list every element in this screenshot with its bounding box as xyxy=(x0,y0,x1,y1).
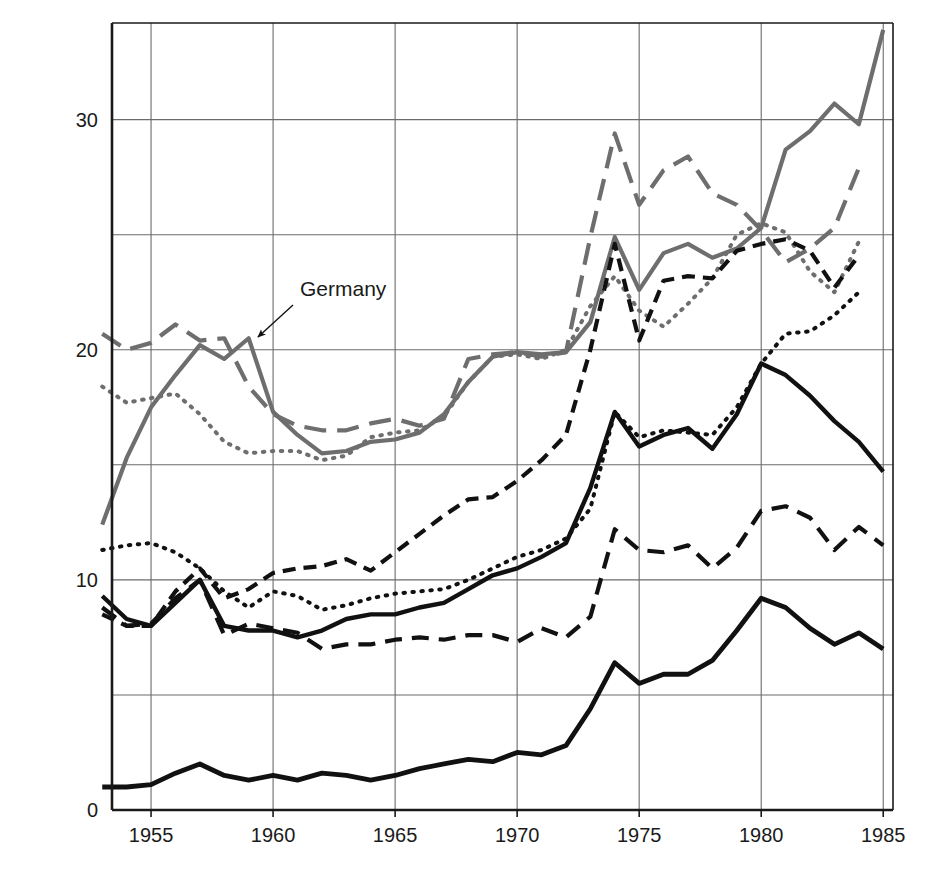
x-tick-label: 1985 xyxy=(861,824,906,846)
chart-page: 01020301955196019651970197519801985 Germ… xyxy=(0,0,931,870)
x-tick-label: 1980 xyxy=(739,824,784,846)
y-tick-label: 10 xyxy=(76,569,98,591)
gridlines-group xyxy=(112,23,893,810)
axis-frame xyxy=(112,23,893,810)
gnp-line-chart: 01020301955196019651970197519801985 Germ… xyxy=(0,0,931,870)
series-line-united-kingdom xyxy=(102,133,859,430)
tick-labels-group: 01020301955196019651970197519801985 xyxy=(76,109,906,846)
x-tick-label: 1960 xyxy=(251,824,296,846)
series-line-world xyxy=(102,364,883,638)
y-tick-label: 30 xyxy=(76,109,98,131)
series-group xyxy=(102,30,883,787)
x-tick-label: 1975 xyxy=(617,824,662,846)
x-tick-label: 1970 xyxy=(495,824,540,846)
x-tick-label: 1955 xyxy=(129,824,174,846)
series-line-france xyxy=(102,292,859,610)
y-tick-label: 0 xyxy=(87,799,98,821)
x-tick-label: 1965 xyxy=(373,824,418,846)
series-label-germany: Germany xyxy=(300,277,387,300)
series-line-canada xyxy=(102,223,859,460)
series-annotations-group: Germany xyxy=(258,277,387,337)
series-line-germany xyxy=(102,30,883,525)
y-tick-label: 20 xyxy=(76,339,98,361)
annotation-arrow xyxy=(258,305,293,337)
